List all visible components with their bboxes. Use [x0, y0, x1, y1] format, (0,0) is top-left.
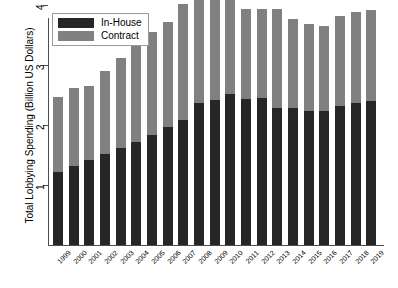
bar-segment-contract-2018 [351, 12, 361, 104]
bar-1999 [53, 97, 63, 245]
bar-segment-in-house-2002 [100, 154, 110, 245]
bar-2013 [272, 9, 282, 245]
bar-segment-in-house-2015 [304, 111, 314, 245]
bar-segment-in-house-2019 [366, 101, 376, 245]
bar-segment-contract-2010 [225, 0, 235, 94]
lobbying-spending-chart: Total Lobbying Spending (Billion US Doll… [0, 0, 398, 288]
bar-segment-contract-2015 [304, 24, 314, 110]
legend-label-in-house: In-House [101, 18, 142, 28]
bar-segment-contract-2000 [69, 88, 79, 165]
bar-segment-in-house-2018 [351, 103, 361, 245]
x-axis-line [48, 245, 384, 246]
bar-segment-contract-2004 [131, 44, 141, 142]
bar-2011 [241, 9, 251, 245]
bar-2012 [257, 9, 267, 245]
y-tick-label-wrap-2: 2 [22, 119, 40, 131]
bar-segment-in-house-2005 [147, 135, 157, 245]
bar-segment-contract-2008 [194, 0, 204, 103]
bar-segment-contract-2019 [366, 10, 376, 101]
bar-segment-in-house-2000 [69, 166, 79, 245]
bar-segment-in-house-2014 [288, 108, 298, 245]
bar-segment-contract-2002 [100, 71, 110, 154]
bar-segment-in-house-2011 [241, 99, 251, 245]
bar-segment-in-house-2016 [319, 111, 329, 245]
y-tick-label-3: 3 [35, 65, 46, 83]
y-tick-label-1: 1 [35, 185, 46, 203]
bar-segment-contract-2007 [178, 4, 188, 120]
bar-2018 [351, 12, 361, 245]
y-tick-label-wrap-3: 3 [22, 59, 40, 71]
y-tick-label-wrap-4: 4 [22, 0, 40, 11]
bar-segment-contract-2001 [84, 86, 94, 160]
y-tick-label-wrap-1: 1 [22, 179, 40, 191]
bar-2019 [366, 10, 376, 245]
legend-item-in-house: In-House [58, 18, 142, 28]
bar-segment-contract-2012 [257, 9, 267, 98]
y-tick-label-4: 4 [35, 5, 46, 23]
bar-2003 [116, 58, 126, 245]
bar-segment-contract-1999 [53, 97, 63, 172]
bar-segment-in-house-2010 [225, 94, 235, 245]
bar-2007 [178, 4, 188, 245]
bar-2004 [131, 44, 141, 245]
chart-legend: In-House Contract [52, 13, 149, 46]
bar-segment-in-house-2007 [178, 120, 188, 245]
bar-segment-contract-2016 [319, 26, 329, 111]
bar-2008 [194, 0, 204, 245]
legend-item-contract: Contract [58, 31, 142, 41]
bar-segment-in-house-2008 [194, 103, 204, 245]
y-tick-label-2: 2 [35, 125, 46, 143]
legend-label-contract: Contract [101, 31, 139, 41]
bar-segment-in-house-2012 [257, 98, 267, 245]
bar-segment-contract-2013 [272, 9, 282, 107]
bar-segment-contract-2003 [116, 58, 126, 148]
bar-segment-in-house-2001 [84, 160, 94, 245]
bar-segment-in-house-1999 [53, 172, 63, 245]
bar-segment-contract-2006 [163, 22, 173, 127]
bar-2017 [335, 16, 345, 245]
bar-2009 [210, 0, 220, 245]
bar-segment-contract-2009 [210, 0, 220, 100]
bar-2015 [304, 24, 314, 245]
bar-segment-in-house-2004 [131, 142, 141, 245]
bar-segment-contract-2011 [241, 9, 251, 99]
bar-2014 [288, 19, 298, 245]
legend-swatch-contract [58, 31, 94, 41]
bar-segment-in-house-2013 [272, 108, 282, 245]
legend-swatch-in-house [58, 18, 94, 28]
bar-2006 [163, 22, 173, 245]
bar-2016 [319, 26, 329, 245]
bar-segment-contract-2017 [335, 16, 345, 106]
bar-2010 [225, 0, 235, 245]
bar-segment-in-house-2003 [116, 148, 126, 245]
bar-2000 [69, 88, 79, 245]
bar-segment-contract-2005 [147, 32, 157, 135]
bar-2001 [84, 86, 94, 245]
plot-area [49, 18, 384, 245]
bar-segment-in-house-2009 [210, 100, 220, 245]
bar-2002 [100, 71, 110, 245]
bar-segment-in-house-2017 [335, 106, 345, 245]
bar-segment-contract-2014 [288, 19, 298, 108]
bar-segment-in-house-2006 [163, 127, 173, 245]
bar-2005 [147, 32, 157, 245]
